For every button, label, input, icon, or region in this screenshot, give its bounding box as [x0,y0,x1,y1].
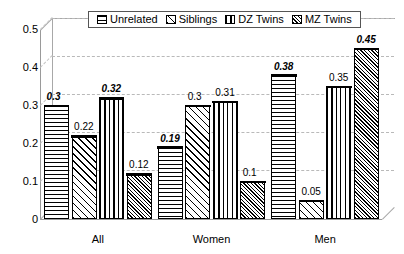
bar-value-label: 0.3 [47,92,61,102]
bar-value-label: 0.38 [274,62,293,72]
legend-swatch [97,15,107,24]
bar [354,48,379,219]
bar-value-label: 0.22 [74,122,93,132]
bar [72,135,97,219]
bar-value-label: 0.31 [215,88,234,98]
bar-value-label: 0.12 [129,160,148,170]
legend-label: Unrelated [110,14,158,25]
bar-value-label: 0.1 [243,168,257,178]
bar-top-edge [157,146,183,149]
chart-container: 00.10.20.30.40.5 AllWomenMen UnrelatedSi… [0,0,404,254]
bar [240,181,265,219]
y-axis-tick-label: 0.1 [4,176,38,187]
legend-item: Siblings [166,14,218,25]
legend-item: DZ Twins [225,14,284,25]
bar-top-edge [44,105,70,108]
y-axis-tick-labels: 00.10.20.30.40.5 [0,0,38,254]
bar-value-label: 0.3 [188,92,202,102]
bar-top-edge [299,200,325,203]
legend-swatch [292,15,302,24]
y-axis-tick-label: 0.4 [4,62,38,73]
chart-legend: UnrelatedSiblingsDZ TwinsMZ Twins [88,11,361,28]
bar-top-edge [212,101,238,104]
legend-label: MZ Twins [305,14,352,25]
bar-top-edge [271,74,297,77]
bar [127,173,152,219]
bar [99,97,124,219]
bar-group [155,29,269,219]
bar-top-edge [71,135,97,138]
bar-top-edge [126,173,152,176]
x-axis-category-label: Women [155,234,269,245]
bar-group [41,29,155,219]
y-axis-tick-label: 0.5 [4,24,38,35]
bar-top-edge [326,86,352,89]
bar [299,200,324,219]
bar-value-label: 0.35 [329,73,348,83]
bar-value-label: 0.32 [102,84,121,94]
x-axis-line [40,219,382,220]
bar-top-edge [354,48,380,51]
bar [213,101,238,219]
legend-swatch [166,15,176,24]
bar-value-label: 0.05 [301,187,320,197]
legend-item: MZ Twins [292,14,352,25]
bar-top-edge [240,181,266,184]
legend-label: DZ Twins [238,14,284,25]
bar-value-label: 0.19 [160,134,179,144]
bar-top-edge [185,105,211,108]
legend-label: Siblings [179,14,218,25]
bar-top-edge [99,97,125,100]
bar-value-label: 0.45 [356,35,375,45]
y-axis-tick-label: 0.2 [4,138,38,149]
x-axis-category-label: All [41,234,155,245]
bar-group [268,29,382,219]
bar [271,75,296,219]
y-axis-tick-label: 0.3 [4,100,38,111]
bar [44,105,69,219]
y-axis-tick-label: 0 [4,214,38,225]
bar [158,147,183,219]
legend-swatch [225,15,235,24]
legend-item: Unrelated [97,14,158,25]
bar [185,105,210,219]
bar [326,86,351,219]
x-axis-category-label: Men [268,234,382,245]
